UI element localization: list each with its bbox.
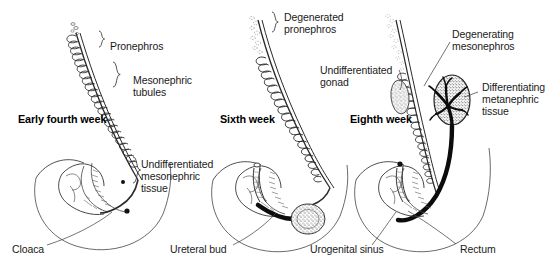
label-urogenital-sinus: Urogenital sinus [310,243,384,255]
panel-1-artwork [35,23,171,250]
leader-urogenital-sinus [372,212,396,245]
cloaca-structure [59,163,126,215]
label-rectum: Rectum [460,243,496,255]
brace-pronephros [99,31,105,47]
panel-2-artwork [212,12,348,252]
stage-label-early-fourth-week: Early fourth week [18,113,106,125]
metanephric-kidney-structure [429,75,470,125]
degenerated-pronephros-structure [250,16,262,53]
pronephros-structure [71,23,79,35]
leader-ureteral-bud [233,213,276,245]
duct-tube-2 [253,163,266,202]
duct-marker-upper [121,180,125,184]
leader-cloaca [47,212,112,245]
label-ureteral-bud: Ureteral bud [170,243,227,255]
label-undifferentiated-gonad-line2: gonad [320,76,349,88]
label-degenerated-pronephros-line2: pronephros [284,23,336,35]
label-cloaca: Cloaca [12,243,44,255]
embryology-figure: Early fourth week Pronephros Mesonephric… [0,0,557,273]
label-undifferentiated-mesonephric-tissue-line3: tissue [141,182,168,194]
label-undifferentiated-mesonephric-tissue-line2: mesonephric [141,170,200,182]
label-degenerated-pronephros-line1: Degenerated [284,11,344,23]
undifferentiated-gonad-structure [389,79,410,115]
duct-marker-lower [124,208,129,213]
label-degenerating-mesonephros-line2: mesonephros [452,40,515,52]
label-pronephros: Pronephros [110,40,163,52]
label-undifferentiated-gonad-line1: Undifferentiated [320,64,392,76]
metanephric-blastema-structure [291,204,325,234]
label-degenerating-mesonephros-line1: Degenerating [452,28,514,40]
label-mesonephric-tubules-line2: tubules [133,86,166,98]
duct-marker-8wk [397,161,402,166]
stage-label-eighth-week: Eighth week [350,113,412,125]
label-differentiating-metanephric-tissue-line2: metanephric [482,93,539,105]
label-differentiating-metanephric-tissue-line3: tissue [482,105,509,117]
brace-mesonephric-tubules [113,62,120,87]
label-undifferentiated-mesonephric-tissue-line1: Undifferentiated [141,158,213,170]
stage-label-sixth-week: Sixth week [220,113,275,125]
brace-degenerated-pronephros [272,12,278,32]
label-differentiating-metanephric-tissue-line1: Differentiating [482,81,545,93]
mesonephric-tubules-structure [67,35,137,167]
label-mesonephric-tubules-line1: Mesonephric [133,74,192,86]
